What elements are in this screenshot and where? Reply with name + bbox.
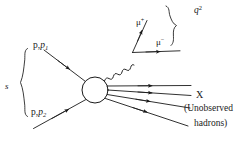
muon-minus-charge: − xyxy=(161,37,164,43)
muon-plus-charge: + xyxy=(141,17,144,23)
muon-plus-arrow xyxy=(138,31,143,42)
incoming-bottom-label: p,p2 xyxy=(31,108,46,118)
figure-canvas: s p,p1 p,p2 μ+ μ− q2 X (Unobserved hadro… xyxy=(0,0,237,142)
incoming-bottom-momentum-index: 2 xyxy=(43,111,46,118)
wavy-photon-line xyxy=(105,65,135,81)
left-curly-brace xyxy=(21,49,28,117)
muon-minus-label: μ− xyxy=(156,37,164,47)
virtuality-exponent: 2 xyxy=(199,4,202,11)
virtuality-label: q2 xyxy=(194,5,202,15)
muon-plus-label: μ+ xyxy=(136,17,144,27)
final-state-note-line1: (Unobserved xyxy=(184,104,233,114)
mandelstam-s-label: s xyxy=(5,82,9,91)
incoming-top-momentum-index: 1 xyxy=(45,44,48,51)
incoming-arrow-top xyxy=(58,61,70,70)
right-curly-brace xyxy=(166,6,177,46)
incoming-arrow-bottom xyxy=(52,109,69,118)
hadron-arrow xyxy=(133,108,147,113)
final-state-label: X xyxy=(196,90,203,100)
hadron-arrow xyxy=(136,99,150,101)
hadron-arrow xyxy=(138,92,152,93)
final-state-note-line2: hadrons) xyxy=(194,119,227,129)
incoming-top-label: p,p1 xyxy=(33,41,48,51)
